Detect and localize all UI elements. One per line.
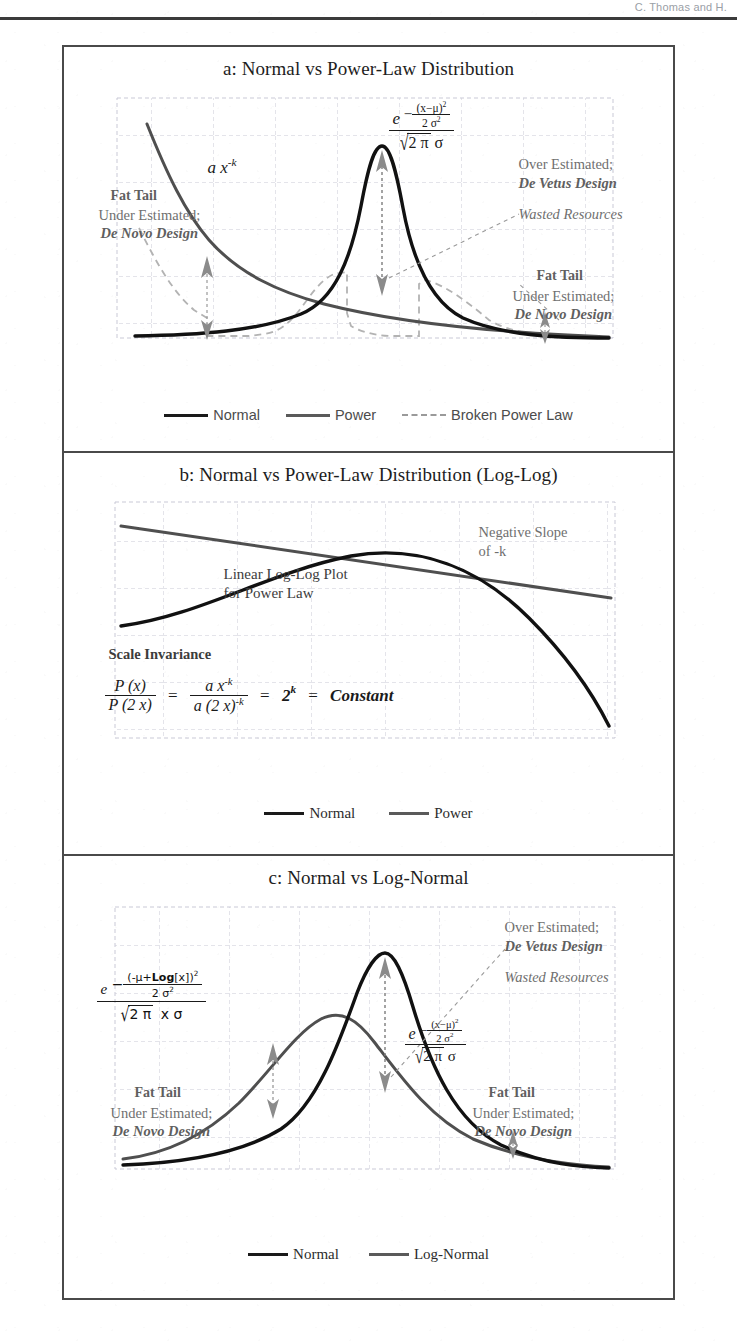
panel-c-ln-minus: − [112, 976, 124, 992]
figure-container: a: Normal vs Power-Law Distribution [62, 45, 675, 1300]
panel-a-right-de-novo: De Novo Design [515, 306, 612, 323]
legend-item-power[interactable]: Power [389, 805, 472, 822]
panel-b-plot: Negative Slope of -k Linear Log-Log Plot… [89, 494, 649, 789]
panel-a-de-vetus: De Vetus Design [519, 175, 617, 192]
legend-label-power: Power [434, 805, 472, 822]
panel-c-n-num-bot: 2 σ [436, 1032, 450, 1043]
panel-b-title: b: Normal vs Power-Law Distribution (Log… [64, 453, 673, 486]
panel-b-eq-mid-den-sup: -k [236, 696, 244, 707]
panel-b-eq-mid-num: a x [205, 677, 224, 694]
panel-b-eq-equals-3: = [300, 686, 326, 706]
panel-a-formula-radicand: 2 π [407, 133, 430, 152]
legend-item-normal[interactable]: Normal [164, 407, 260, 423]
panel-a-formula-e: e [393, 109, 401, 128]
panel-c-wasted-resources: Wasted Resources [505, 969, 609, 986]
panel-a-power-formula-a: a x [208, 158, 228, 177]
panel-c-de-vetus: De Vetus Design [505, 938, 603, 955]
panel-a: a: Normal vs Power-Law Distribution [64, 47, 673, 451]
panel-c-ln-num-sup: 2 [194, 969, 199, 978]
legend-item-normal[interactable]: Normal [264, 805, 355, 822]
panel-a-power-formula-exp: -k [228, 156, 237, 168]
panel-a-right-under-estimated: Under Estimated; [513, 288, 615, 305]
panel-c-n-num-top: (x−μ) [431, 1019, 455, 1030]
panel-a-formula-sigma: σ [435, 134, 444, 151]
panel-b-negative-slope-line1: Negative Slope [479, 524, 568, 541]
panel-b-eq-equals-2: = [252, 686, 278, 706]
panel-a-power-formula: a x-k [208, 156, 237, 178]
panel-c-n-sigma: σ [448, 1048, 456, 1064]
legend-label-normal: Normal [213, 407, 260, 423]
panel-b-scale-invariance: Scale Invariance [109, 646, 212, 663]
panel-c-ln-radicand: 2 π [128, 1005, 153, 1022]
panel-c-ln-num-open: (-μ+ [127, 971, 151, 984]
legend-swatch-power-icon [389, 812, 429, 815]
panel-c-n-e: e [409, 1025, 416, 1042]
panel-b-eq-lhs-den: P (2 x) [109, 696, 152, 713]
panel-a-formula-num-bot-sup: 2 [437, 115, 441, 124]
panel-c-n-sqrt: √2 π [415, 1047, 444, 1065]
legend-swatch-broken-power-icon [402, 414, 446, 416]
panel-c-n-num-top-sup: 2 [455, 1017, 458, 1024]
legend-swatch-log-normal-icon [369, 1253, 409, 1256]
panel-a-title: a: Normal vs Power-Law Distribution [64, 47, 673, 80]
panel-b-eq-rhs-sup: k [290, 683, 296, 695]
panel-c-right-de-novo: De Novo Design [475, 1123, 572, 1140]
panel-a-right-fat-tail: Fat Tail [537, 268, 583, 285]
legend-swatch-normal-icon [264, 812, 304, 815]
panel-c-normal-formula: e − (x−μ)2 2 σ2 √2 π σ [405, 1017, 467, 1065]
panel-c-left-under-estimated: Under Estimated; [111, 1105, 213, 1122]
legend-item-log-normal[interactable]: Log-Normal [369, 1246, 489, 1263]
legend-label-normal: Normal [293, 1246, 339, 1263]
panel-a-formula-sqrt: √2 π [400, 133, 431, 152]
legend-swatch-power-icon [286, 414, 330, 417]
legend-label-log-normal: Log-Normal [414, 1246, 489, 1263]
panel-c-left-de-novo: De Novo Design [113, 1123, 210, 1140]
legend-item-power[interactable]: Power [286, 407, 376, 423]
panel-a-left-under-estimated: Under Estimated; [99, 207, 201, 224]
panel-b-linear-plot-line2: for Power Law [224, 585, 314, 603]
panel-b-eq-lhs-num: P (x) [115, 677, 146, 694]
panel-a-left-fat-tail: Fat Tail [111, 188, 157, 205]
panel-c-legend: Normal Log-Normal [64, 1246, 673, 1263]
panel-c-n-num-bot-sup: 2 [450, 1031, 453, 1038]
panel-c-ln-den-tail: x σ [158, 1006, 183, 1022]
panel-c-over-estimated: Over Estimated; [505, 919, 600, 936]
legend-swatch-normal-icon [248, 1253, 288, 1256]
panel-c-left-fat-tail: Fat Tail [135, 1085, 181, 1102]
panel-c: c: Normal vs Log-Normal [64, 854, 673, 1298]
panel-c-plot: e − (-μ+Log[x])2 2 σ2 √2 π x σ [89, 897, 649, 1227]
panel-c-ln-num-x: [x]) [174, 971, 193, 984]
panel-a-wasted-resources: Wasted Resources [519, 206, 623, 223]
legend-label-normal: Normal [309, 805, 355, 822]
panel-b-legend: Normal Power [64, 805, 673, 822]
panel-b-eq-mid-den: a (2 x) [194, 698, 236, 715]
panel-c-right-under-estimated: Under Estimated; [473, 1105, 575, 1122]
panel-b-scale-equation: P (x) P (2 x) = a x-k a (2 x)-k = 2k = C… [105, 676, 394, 716]
panel-c-ln-den-mid: 2 σ [152, 986, 169, 999]
legend-item-broken-power-law[interactable]: Broken Power Law [402, 407, 573, 423]
panel-a-legend: Normal Power Broken Power Law [64, 407, 673, 423]
panel-a-normal-formula: e − (x−μ)2 2 σ2 √2 π σ [389, 100, 455, 152]
legend-label-broken-power-law: Broken Power Law [451, 407, 573, 423]
panel-b: b: Normal vs Power-Law Distribution (Log… [64, 451, 673, 854]
panel-b-eq-constant: Constant [330, 686, 393, 706]
panel-b-eq-equals-1: = [160, 686, 186, 706]
panel-c-ln-den-mid-sup: 2 [169, 985, 174, 994]
panel-a-over-estimated: Over Estimated; [519, 156, 614, 173]
legend-swatch-normal-icon [164, 414, 208, 417]
panel-a-formula-num-top: (x−μ) [416, 102, 442, 114]
panel-c-ln-sqrt: √2 π [121, 1005, 154, 1022]
panel-a-plot: Fat Tail Under Estimated; De Novo Design… [89, 88, 649, 393]
running-head-text: C. Thomas and H. [635, 0, 737, 13]
panel-b-eq-mid-num-sup: -k [224, 676, 232, 687]
panel-b-linear-plot-line1: Linear Log-Log Plot [224, 566, 348, 584]
panel-b-negative-slope-line2: of -k [479, 543, 507, 560]
panel-c-n-radicand: 2 π [422, 1047, 444, 1065]
panel-c-right-fat-tail: Fat Tail [489, 1085, 535, 1102]
panel-a-formula-num-top-sup: 2 [442, 100, 446, 109]
panel-c-title: c: Normal vs Log-Normal [64, 856, 673, 889]
panel-c-lognormal-formula: e − (-μ+Log[x])2 2 σ2 √2 π x σ [97, 969, 207, 1022]
legend-label-power: Power [335, 407, 376, 423]
panel-a-formula-num-bot: 2 σ [422, 117, 437, 129]
legend-item-normal[interactable]: Normal [248, 1246, 339, 1263]
